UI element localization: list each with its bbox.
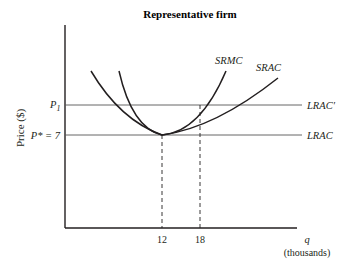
srac-curve bbox=[91, 71, 278, 135]
x-tick-12: 12 bbox=[157, 234, 167, 245]
srac-label: SRAC bbox=[256, 62, 282, 73]
x-tick-18: 18 bbox=[195, 234, 205, 245]
y-axis-label: Price ($) bbox=[14, 109, 27, 148]
lrac-label: LRAC bbox=[306, 130, 334, 141]
chart-title: Representative firm bbox=[143, 8, 237, 20]
lrac-prime-label: LRAC′ bbox=[306, 100, 336, 111]
chart-canvas: Representative firm Price ($) SRMC SRAC … bbox=[0, 0, 349, 267]
p1-label: P1 bbox=[49, 99, 60, 113]
srmc-label: SRMC bbox=[215, 55, 243, 66]
x-axis-sublabel: (thousands) bbox=[284, 247, 331, 259]
x-axis-label: q bbox=[304, 234, 309, 245]
srmc-curve bbox=[119, 71, 226, 135]
pstar-label: P* = 7 bbox=[30, 130, 61, 141]
